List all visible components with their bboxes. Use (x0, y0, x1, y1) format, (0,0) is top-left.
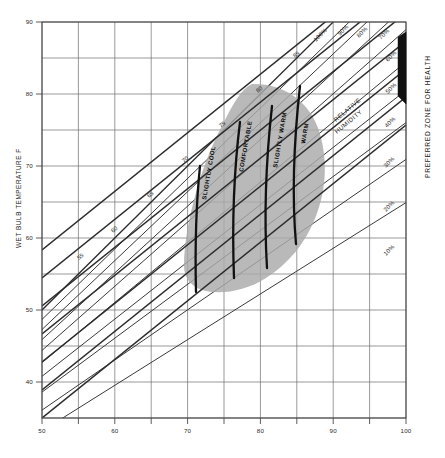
y-tick-label-80: 80 (26, 90, 34, 97)
x-tick-label-60: 60 (111, 427, 119, 434)
x-tick-label-80: 80 (257, 427, 265, 434)
x-tick-label-50: 50 (38, 427, 46, 434)
y-axis-title: WET BULB TEMPERATURE F (15, 148, 22, 248)
x-axis: 50 60 70 80 90 100 (38, 418, 411, 434)
x-tick-label-70: 70 (184, 427, 192, 434)
preferred-zone-title: PREFERRED ZONE FOR HEALTH (424, 55, 431, 178)
y-axis: 90 80 70 60 50 40 WET BULB TEMPERATURE F (15, 18, 42, 385)
y-tick-label-90: 90 (26, 18, 34, 25)
x-tick-label-90: 90 (330, 427, 338, 434)
chart-svg: 90 80 70 60 50 40 WET BULB TEMPERATURE F… (0, 0, 445, 458)
preferred-zone-wedge (398, 32, 406, 104)
y-tick-label-50: 50 (26, 306, 34, 313)
y-tick-label-60: 60 (26, 234, 34, 241)
psychrometric-comfort-chart: 90 80 70 60 50 40 WET BULB TEMPERATURE F… (0, 0, 445, 458)
x-tick-label-100: 100 (401, 427, 412, 434)
y-tick-label-70: 70 (26, 162, 34, 169)
y-tick-label-40: 40 (26, 378, 34, 385)
